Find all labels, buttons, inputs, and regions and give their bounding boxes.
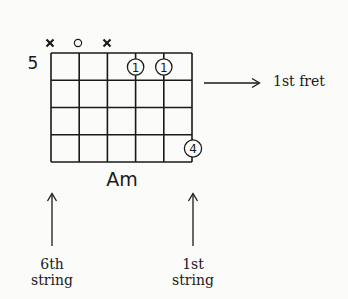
position-fret-number: 5 (24, 55, 42, 72)
sixth-string-arrow-icon (48, 194, 57, 247)
first-string-arrow-icon (189, 194, 198, 247)
finger-number: 4 (189, 142, 197, 156)
fret-arrow-icon (204, 79, 260, 88)
first-string-label-line2: string (158, 272, 228, 288)
sixth-string-label-line1: 6th (17, 256, 87, 272)
first-string-label: 1st string (158, 256, 228, 288)
chord-diagram: 1 1 4 (0, 0, 348, 299)
chord-name: Am (92, 170, 152, 189)
sixth-string-label-line2: string (17, 272, 87, 288)
finger-marker-string-3: 1 (127, 59, 143, 75)
sixth-string-label: 6th string (17, 256, 87, 288)
string-markers (47, 39, 111, 46)
finger-marker-string-1: 4 (184, 140, 201, 157)
muted-marker-icon (104, 40, 111, 47)
muted-marker-icon (47, 40, 54, 47)
first-string-label-line1: 1st (158, 256, 228, 272)
finger-number: 1 (160, 61, 168, 75)
open-marker-icon (74, 39, 81, 46)
finger-marker-string-2: 1 (156, 59, 172, 75)
finger-number: 1 (132, 61, 140, 75)
fret-label: 1st fret (273, 74, 325, 88)
